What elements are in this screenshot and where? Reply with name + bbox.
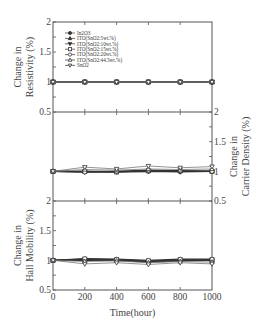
legend-marker bbox=[68, 36, 72, 39]
y-tick-label: 1 bbox=[46, 77, 51, 87]
y-tick-label: 1.5 bbox=[214, 137, 226, 147]
data-point bbox=[83, 262, 87, 266]
legend-marker bbox=[68, 31, 71, 34]
data-point bbox=[114, 261, 118, 265]
legend-item: ITO(SnO2:44.5wt.%) bbox=[65, 57, 122, 64]
y-tick-label: 2 bbox=[214, 107, 219, 117]
chart-figure: 21.510.5Change inResistivity (%)21.510.5… bbox=[0, 0, 266, 327]
y-axis-title-line1: Change in bbox=[12, 47, 23, 88]
y-axis-title-line1: Change in bbox=[12, 225, 23, 266]
x-tick-label: 1000 bbox=[203, 292, 222, 302]
data-point bbox=[146, 164, 150, 168]
y-axis-title-line2: Hall Mobility (%) bbox=[24, 209, 36, 281]
axis-labels: 21.510.5Change inResistivity (%)21.510.5… bbox=[12, 17, 252, 319]
x-tick-label: 0 bbox=[51, 292, 56, 302]
data-series bbox=[51, 80, 214, 267]
y-tick-label: 0.5 bbox=[39, 107, 51, 117]
y-axis-title-line2: Carrier Density (%) bbox=[240, 117, 252, 196]
x-tick-label: 200 bbox=[78, 292, 93, 302]
x-tick-label: 600 bbox=[141, 292, 156, 302]
legend-marker bbox=[68, 58, 72, 61]
legend-marker bbox=[68, 53, 71, 56]
x-tick-label: 800 bbox=[173, 292, 188, 302]
legend: In2O3ITO(SnO2:5wt.%)ITO(SnO2:10wt.%)ITO(… bbox=[65, 30, 122, 68]
x-axis-title: Time(hour) bbox=[110, 307, 156, 319]
y-axis-title-line1: Change in bbox=[228, 136, 239, 177]
y-tick-label: 2 bbox=[46, 196, 51, 206]
series-SnO2 bbox=[51, 80, 214, 84]
y-tick-label: 1 bbox=[214, 167, 219, 177]
y-axis-title-line2: Resistivity (%) bbox=[24, 37, 36, 97]
data-point bbox=[178, 261, 182, 265]
data-point bbox=[210, 262, 214, 266]
y-tick-label: 1.5 bbox=[39, 47, 51, 57]
y-tick-label: 2 bbox=[46, 17, 51, 27]
y-tick-label: 0.5 bbox=[214, 196, 226, 206]
legend-item: SnO2 bbox=[65, 62, 89, 68]
legend-marker bbox=[68, 48, 71, 51]
y-axis-title: Change inHall Mobility (%) bbox=[12, 209, 36, 281]
legend-marker bbox=[68, 64, 72, 67]
y-tick-label: 1 bbox=[46, 256, 51, 266]
data-point bbox=[146, 263, 150, 267]
x-tick-label: 400 bbox=[109, 292, 124, 302]
y-tick-label: 1.5 bbox=[39, 226, 51, 236]
legend-marker bbox=[68, 43, 72, 46]
legend-label: SnO2 bbox=[77, 62, 89, 68]
y-tick-label: 0.5 bbox=[39, 285, 51, 295]
y-axis-title: Change inResistivity (%) bbox=[12, 37, 36, 97]
y-axis-title: Change inCarrier Density (%) bbox=[228, 117, 252, 196]
